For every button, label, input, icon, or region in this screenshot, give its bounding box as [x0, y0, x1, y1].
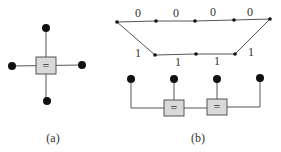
equality-symbol: = — [214, 100, 221, 114]
panel-a: = (a) — [8, 24, 86, 145]
node-bottom — [43, 97, 51, 105]
node-left — [8, 62, 16, 70]
edge-label: 0 — [135, 6, 141, 20]
caption-b: (b) — [191, 131, 205, 145]
panel-b-trellis: 0 0 0 0 1 1 1 1 — [115, 5, 272, 69]
equality-symbol: = — [171, 101, 178, 115]
panel-b-factor-graph: = = (b) — [127, 74, 264, 145]
edge-label: 0 — [173, 6, 179, 20]
equality-symbol: = — [43, 59, 50, 73]
node-top — [42, 24, 50, 32]
edge-label: 1 — [214, 54, 220, 68]
edge-label: 0 — [247, 5, 253, 19]
node-right — [78, 61, 86, 69]
edge-label: 1 — [135, 46, 141, 60]
edge-label: 1 — [248, 45, 254, 59]
diagram-canvas: = (a) 0 0 0 0 1 1 1 1 = = ( — [0, 0, 281, 152]
caption-a: (a) — [46, 131, 59, 145]
edge-label: 0 — [210, 5, 216, 19]
edge-label: 1 — [175, 55, 181, 69]
